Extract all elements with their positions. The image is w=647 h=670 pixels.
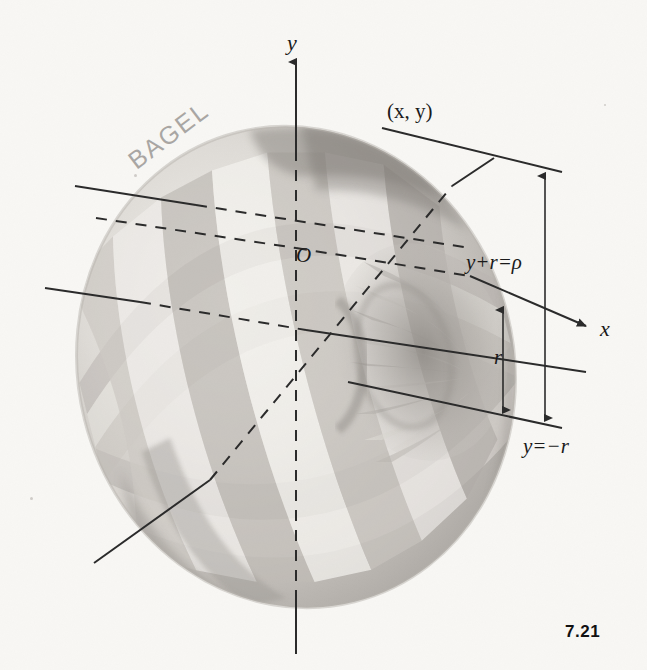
x-axis-label: x: [600, 316, 610, 342]
y-axis-label: y: [287, 30, 297, 56]
upper-horizon-line: [75, 186, 470, 248]
axes-and-dimension-lines: [0, 0, 647, 670]
outer-dimension-label: y+r=ρ: [466, 250, 522, 275]
lower-horizon-line: [45, 288, 586, 372]
paper-speck: [30, 497, 33, 500]
lower-bound-line: [160, 360, 562, 428]
paper-speck: [134, 174, 137, 177]
figure-number: 7.21: [565, 622, 600, 642]
oblique-axis: [94, 158, 494, 563]
lower-bound-label: y=−r: [523, 434, 569, 459]
point-label: (x, y): [387, 99, 433, 124]
figure-container: y x O (x, y) y+r=ρ r y=−r BAGEL 7.21: [0, 0, 647, 670]
paper-speck: [604, 104, 606, 106]
point-leader-line: [382, 128, 562, 172]
inner-dimension-label: r: [494, 345, 502, 370]
origin-label: O: [296, 243, 311, 268]
